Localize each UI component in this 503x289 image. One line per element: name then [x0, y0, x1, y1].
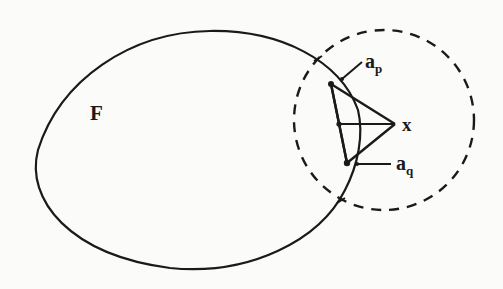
label-a-p-base: a: [365, 50, 375, 72]
label-x: x: [402, 114, 412, 135]
leader-line-a-p: [342, 62, 362, 79]
point-midpoint: [336, 121, 341, 126]
label-a-q-base: a: [396, 152, 406, 174]
label-F: F: [90, 101, 103, 125]
label-a-q-subscript: q: [406, 163, 414, 178]
diagram-figure: F x ap aq: [0, 0, 503, 289]
label-a-p: ap: [365, 50, 382, 76]
region-F-boundary: [36, 31, 361, 269]
label-a-p-subscript: p: [375, 61, 382, 76]
point-lower-vertex: [344, 160, 350, 166]
point-upper-vertex: [328, 81, 334, 87]
label-a-q: aq: [396, 152, 414, 178]
